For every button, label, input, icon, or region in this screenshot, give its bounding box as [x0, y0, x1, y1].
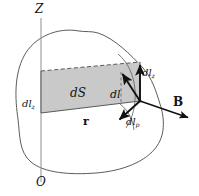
label-dlrho-sub: p — [136, 121, 140, 128]
label-z-axis: Z — [35, 3, 43, 15]
label-line-element-z-right: dlz — [142, 68, 155, 79]
label-dlz-left-sub: z — [32, 103, 35, 110]
label-dlz-right-sub: z — [152, 72, 155, 79]
label-line-element: dl — [110, 89, 121, 100]
physics-diagram: Z O dS dl dlz dlz dlp r B — [0, 0, 199, 196]
label-position-vector: r — [83, 116, 89, 127]
label-dlz-right-base: dl — [142, 67, 152, 78]
label-origin: O — [36, 176, 46, 188]
label-area-element: dS — [70, 87, 86, 99]
vertex-point — [139, 100, 142, 103]
label-dlz-left-base: dl — [22, 98, 32, 109]
label-magnetic-field: B — [173, 96, 183, 108]
label-dlrho-base: dl — [126, 116, 136, 127]
label-line-element-rho: dlp — [126, 117, 140, 128]
label-line-element-text: dl — [110, 88, 121, 101]
label-line-element-z-left: dlz — [22, 99, 35, 110]
